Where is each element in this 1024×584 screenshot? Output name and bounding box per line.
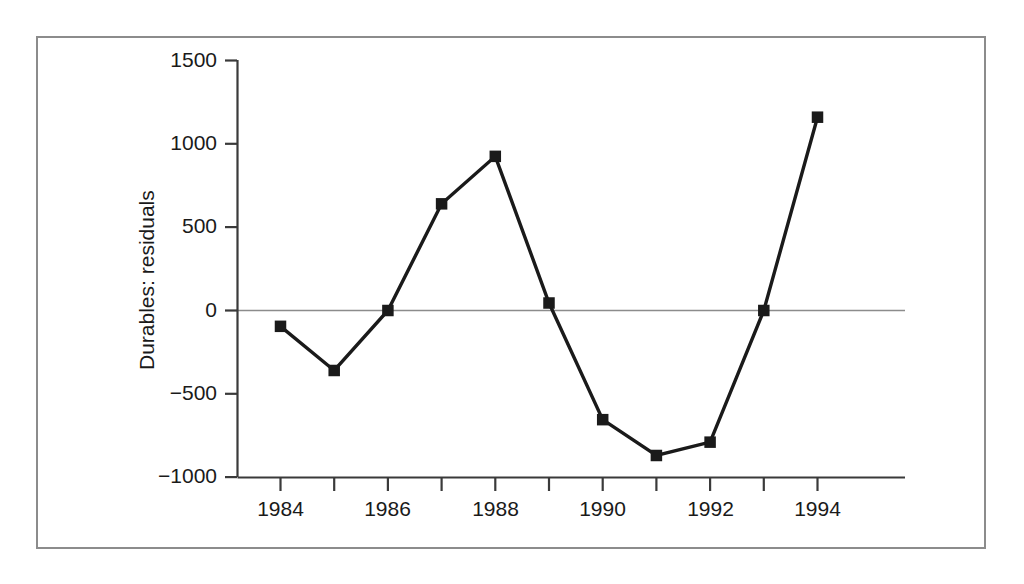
y-tick-label-500: 500 (125, 214, 217, 238)
y-tick-label-1500: 1500 (125, 48, 217, 72)
data-point-marker (704, 436, 716, 448)
y-tick-label-minus500: −500 (125, 381, 217, 405)
data-point-marker (651, 450, 663, 462)
data-series-line (281, 117, 818, 455)
y-tick-label-0: 0 (125, 298, 217, 322)
data-point-marker (758, 305, 770, 317)
x-tick-label-1990: 1990 (562, 497, 643, 521)
y-tick-label-1000: 1000 (125, 131, 217, 155)
data-point-marker (328, 365, 340, 377)
data-point-marker (597, 414, 609, 426)
data-point-marker (275, 321, 287, 333)
data-point-markers (275, 111, 824, 461)
y-axis-ticks (225, 61, 237, 478)
x-axis-ticks (281, 477, 818, 491)
data-point-marker (436, 198, 448, 210)
figure-root: Durables: residuals 1500 1000 500 0 −500… (0, 0, 1024, 584)
y-tick-label-minus1000: −1000 (125, 464, 217, 488)
data-point-marker (812, 111, 824, 123)
data-point-marker (543, 297, 555, 309)
data-point-marker (382, 305, 394, 317)
x-tick-label-1992: 1992 (670, 497, 751, 521)
x-tick-label-1994: 1994 (777, 497, 858, 521)
data-point-marker (490, 151, 502, 163)
x-tick-label-1988: 1988 (455, 497, 536, 521)
x-tick-label-1984: 1984 (240, 497, 321, 521)
x-tick-label-1986: 1986 (347, 497, 428, 521)
